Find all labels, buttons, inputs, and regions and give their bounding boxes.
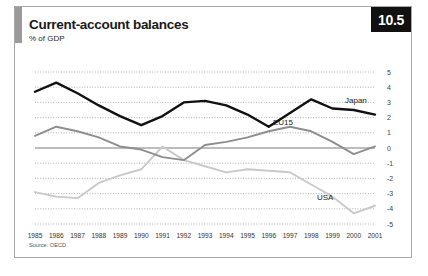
series-line-usa <box>35 146 375 213</box>
x-axis-tick-label: 1987 <box>70 232 85 239</box>
figure-number-badge: 10.5 <box>371 7 411 32</box>
x-axis-tick-label: 1991 <box>155 232 170 239</box>
x-axis-tick-label: 2001 <box>368 232 383 239</box>
x-axis-tick-label: 1985 <box>28 232 43 239</box>
x-axis-tick-label: 1994 <box>219 232 234 239</box>
y-axis-tick-label: -2 <box>387 175 393 182</box>
y-axis-tick-label: 2 <box>387 114 391 121</box>
figure-card: Current-account balances % of GDP 10.5 5… <box>14 6 412 258</box>
y-axis-tick-label: -3 <box>387 190 393 197</box>
chart-subtitle: % of GDP <box>29 34 65 43</box>
x-axis-tick-label: 1986 <box>49 232 64 239</box>
x-axis-tick-label: 1997 <box>283 232 298 239</box>
x-axis-tick-label: 1999 <box>325 232 340 239</box>
x-axis-tick-label: 1990 <box>134 232 149 239</box>
x-axis-tick-label: 1995 <box>240 232 255 239</box>
title-accent-bar <box>15 7 22 43</box>
y-axis-tick-label: 4 <box>387 84 391 91</box>
page-title: Current-account balances <box>29 17 188 32</box>
y-axis-tick-label: -1 <box>387 160 393 167</box>
x-axis-tick-label: 1989 <box>113 232 128 239</box>
series-line-eu15 <box>35 127 375 160</box>
line-chart: 543210-1-2-3-4-5JapanEU15USA198519861987… <box>15 49 413 239</box>
series-label-usa: USA <box>317 193 334 202</box>
series-label-japan: Japan <box>345 96 367 105</box>
y-axis-tick-label: 5 <box>387 69 391 76</box>
series-line-japan <box>35 83 375 127</box>
y-axis-tick-label: -5 <box>387 221 393 228</box>
x-axis-tick-label: 2000 <box>346 232 361 239</box>
x-axis-tick-label: 1998 <box>304 232 319 239</box>
source-note: Source: OECD <box>29 242 66 248</box>
x-axis-tick-label: 1996 <box>261 232 276 239</box>
y-axis-tick-label: -4 <box>387 205 393 212</box>
y-axis-tick-label: 1 <box>387 129 391 136</box>
x-axis-tick-label: 1992 <box>176 232 191 239</box>
x-axis-tick-label: 1993 <box>198 232 213 239</box>
y-axis-tick-label: 3 <box>387 99 391 106</box>
chart-plot-area: 543210-1-2-3-4-5JapanEU15USA198519861987… <box>15 49 413 239</box>
x-axis-tick-label: 1988 <box>91 232 106 239</box>
series-label-eu15: EU15 <box>273 118 294 127</box>
y-axis-tick-label: 0 <box>387 145 391 152</box>
